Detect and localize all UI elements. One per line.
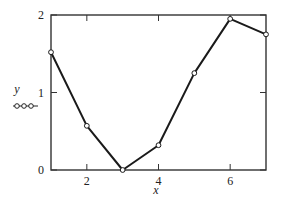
x-tick-label: 2 [84,174,90,188]
data-point [84,123,89,128]
data-point [264,32,269,37]
y-tick-label: 1 [38,86,44,100]
y-tick-label: 0 [38,163,44,177]
y-axis-label: y [13,82,20,96]
data-point [228,16,233,21]
x-axis-label: x [152,183,159,197]
data-point [192,71,197,76]
line-chart: 246012 x y [0,0,281,205]
x-tick-label: 6 [227,174,233,188]
legend-marker-icon [13,104,38,109]
data-point [120,168,125,173]
data-series [49,16,269,172]
y-tick-label: 2 [38,8,44,22]
data-point [49,50,54,55]
data-point [156,143,161,148]
